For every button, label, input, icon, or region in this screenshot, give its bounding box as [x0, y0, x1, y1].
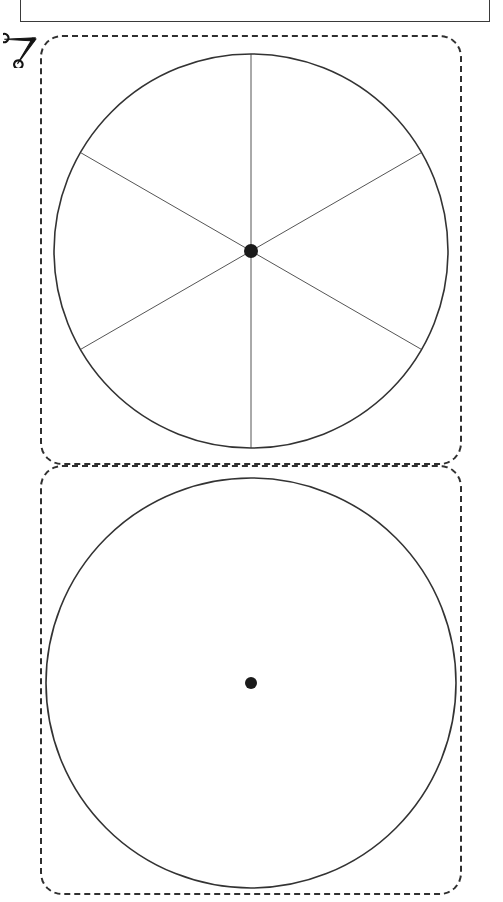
- cut-panel-whole-circle: [40, 465, 462, 895]
- header-rule: [20, 0, 490, 22]
- worksheet-page: [0, 0, 503, 902]
- cut-panel-divided-circle: [40, 35, 462, 465]
